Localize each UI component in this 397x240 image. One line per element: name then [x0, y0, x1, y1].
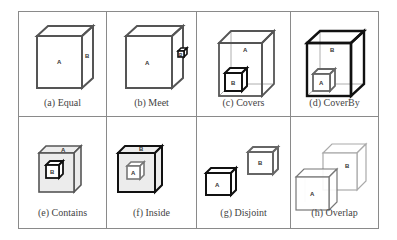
caption: (b) Meet — [107, 97, 196, 108]
caption: (c) Covers — [197, 97, 290, 108]
label-a: A — [310, 191, 315, 197]
cell-contains: A B (e) Contains — [19, 117, 107, 228]
label-b: B — [139, 146, 144, 152]
label-a: A — [61, 147, 66, 153]
caption: (g) Disjoint — [197, 207, 290, 218]
caption: (e) Contains — [19, 207, 106, 218]
label-a: A — [243, 47, 248, 53]
label-b: B — [50, 169, 55, 175]
cell-meet: A B (b) Meet — [107, 12, 197, 117]
cell-equal: A B (a) Equal — [19, 12, 107, 117]
cell-coverby: B A (d) CoverBy — [291, 12, 378, 117]
label-a: A — [215, 182, 220, 188]
label-b: B — [345, 163, 350, 169]
cell-overlap: B A (h) Overlap — [291, 117, 378, 228]
label-a: A — [131, 170, 136, 176]
caption: (a) Equal — [19, 97, 106, 108]
label-b: B — [258, 160, 263, 166]
label-a: A — [57, 59, 62, 65]
caption: (d) CoverBy — [291, 97, 378, 108]
label-b: B — [330, 47, 335, 53]
label-b: B — [231, 80, 236, 86]
label-b: B — [85, 53, 90, 59]
cell-inside: B A (f) Inside — [107, 117, 197, 228]
label-a: A — [145, 60, 150, 66]
label-a: A — [319, 80, 324, 86]
cell-covers: A B (c) Covers — [197, 12, 291, 117]
relations-grid: A B (a) Equal A B (b) Meet — [18, 11, 379, 229]
caption: (f) Inside — [107, 207, 196, 218]
caption: (h) Overlap — [291, 207, 378, 218]
cell-disjoint: A B (g) Disjoint — [197, 117, 291, 228]
